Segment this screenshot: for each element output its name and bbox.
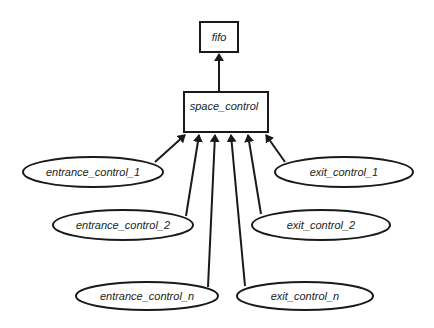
node-exit-control-1[interactable]: exit_control_1 — [275, 157, 413, 187]
node-entrance-control-1[interactable]: entrance_control_1 — [23, 157, 163, 187]
diagram-canvas: fifo space_control entrance_control_1 en… — [0, 0, 434, 328]
node-exit-control-n[interactable]: exit_control_n — [237, 282, 373, 310]
node-space-control[interactable]: space_control — [184, 92, 268, 132]
entrance-control-1-label: entrance_control_1 — [46, 166, 140, 178]
node-exit-control-2[interactable]: exit_control_2 — [252, 210, 390, 240]
edge-exit-control-1-to-space-control — [266, 135, 285, 162]
entrance-control-2-label: entrance_control_2 — [76, 219, 170, 231]
exit-control-2-label: exit_control_2 — [287, 219, 356, 231]
node-fifo[interactable]: fifo — [200, 22, 238, 52]
edge-entrance-control-n-to-space-control — [208, 135, 215, 287]
fifo-label: fifo — [212, 31, 227, 43]
space-control-label: space_control — [190, 100, 259, 112]
entrance-control-n-label: entrance_control_n — [100, 290, 194, 302]
edge-entrance-control-2-to-space-control — [186, 135, 199, 216]
edge-exit-control-2-to-space-control — [248, 135, 261, 214]
edges — [155, 54, 285, 287]
edge-exit-control-n-to-space-control — [231, 135, 245, 286]
space-control-box — [184, 92, 268, 132]
exit-control-n-label: exit_control_n — [271, 290, 340, 302]
node-entrance-control-2[interactable]: entrance_control_2 — [53, 210, 193, 240]
exit-control-1-label: exit_control_1 — [310, 166, 379, 178]
edge-entrance-control-1-to-space-control — [155, 135, 185, 162]
node-entrance-control-n[interactable]: entrance_control_n — [76, 282, 218, 310]
